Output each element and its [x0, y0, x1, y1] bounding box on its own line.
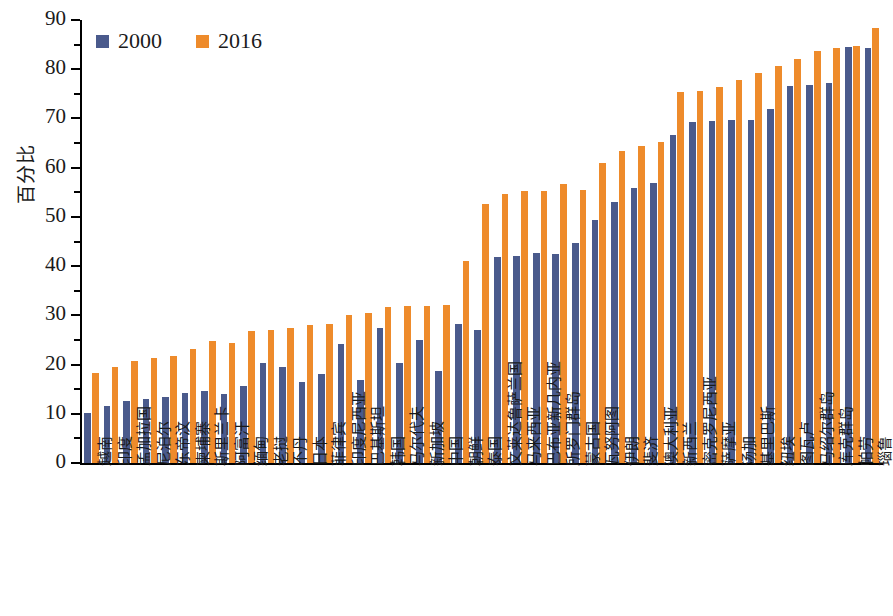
x-axis-label-text: 不丹: [293, 436, 308, 466]
y-tick-label: 0: [56, 450, 67, 472]
bar-group: [767, 20, 787, 463]
bar-group: [104, 20, 124, 463]
x-axis-label-text: 斯里兰卡: [215, 406, 230, 466]
y-tick-mark: [71, 265, 80, 267]
x-axis-label-text: 新西兰: [683, 421, 698, 466]
y-tick-label: 10: [45, 401, 66, 423]
y-tick-mark: [71, 413, 80, 415]
bar-group: [84, 20, 104, 463]
y-axis-title: 百分比: [11, 84, 38, 264]
x-axis-label: 密克罗尼西亚: [703, 376, 718, 466]
x-axis-labels: 越南印度孟加拉国尼泊尔东帝汶柬埔寨斯里兰卡阿富汗缅甸老挝不丹日本菲律宾印度尼西亚…: [82, 466, 882, 616]
y-tick-mark: [71, 167, 80, 169]
bar-group: [650, 20, 670, 463]
x-axis-label: 不丹: [293, 436, 308, 466]
bar-2016: [755, 73, 762, 463]
bar-2000: [84, 413, 91, 463]
y-tick-mark: [74, 290, 80, 292]
x-axis-label: 柬埔寨: [196, 421, 211, 466]
bars-layer: [82, 20, 882, 463]
x-axis-label: 萨摩亚: [722, 421, 737, 466]
x-axis-label-text: 马尔代夫: [410, 406, 425, 466]
y-tick-mark: [74, 241, 80, 243]
x-axis-label-text: 朝鲜: [469, 436, 484, 466]
x-axis-label-text: 萨摩亚: [722, 421, 737, 466]
x-axis-label-text: 老挝: [274, 436, 289, 466]
x-axis-label-text: 阿富汗: [235, 421, 250, 466]
bar-group: [162, 20, 182, 463]
x-axis-label-text: 日本: [313, 436, 328, 466]
bar-2000: [845, 47, 852, 463]
bar-2000: [631, 188, 638, 463]
y-tick-mark: [71, 216, 80, 218]
x-axis-label-text: 图瓦卢: [800, 421, 815, 466]
x-axis-label-text: 马绍尔群岛: [820, 391, 835, 466]
x-axis-label: 马绍尔群岛: [820, 391, 835, 466]
bar-group: [318, 20, 338, 463]
x-axis-label: 瓦努阿图: [605, 406, 620, 466]
x-axis-label-text: 柬埔寨: [196, 421, 211, 466]
x-axis-label: 文莱达鲁萨兰国: [508, 361, 523, 466]
plot-area: 0102030405060708090: [80, 20, 880, 463]
y-tick-mark: [74, 191, 80, 193]
x-axis-label-text: 巴基斯坦: [371, 406, 386, 466]
bar-group: [221, 20, 241, 463]
bar-2000: [787, 86, 794, 463]
bar-group: [279, 20, 299, 463]
x-axis-label-text: 印度: [118, 436, 133, 466]
x-axis-label-text: 缅甸: [254, 436, 269, 466]
bar-group: [631, 20, 651, 463]
x-axis-label-text: 巴布亚新几内亚: [547, 361, 562, 466]
x-axis-label: 基里巴斯: [761, 406, 776, 466]
bar-2016: [638, 146, 645, 463]
y-tick-mark: [71, 117, 80, 119]
x-axis-label: 蒙古国: [586, 421, 601, 466]
y-tick-mark: [74, 388, 80, 390]
bar-2016: [775, 66, 782, 463]
x-axis-label: 阿富汗: [235, 421, 250, 466]
bar-group: [260, 20, 280, 463]
x-axis-label-text: 东帝汶: [176, 421, 191, 466]
bar-2016: [463, 261, 470, 463]
bar-group: [845, 20, 865, 463]
y-tick-label: 90: [45, 7, 66, 29]
x-axis-label: 东帝汶: [176, 421, 191, 466]
bar-2000: [689, 122, 696, 463]
y-tick-mark: [74, 339, 80, 341]
x-axis-label: 缅甸: [254, 436, 269, 466]
x-axis-label: 帕劳: [859, 436, 874, 466]
x-axis-label: 菲律宾: [332, 421, 347, 466]
bar-group: [474, 20, 494, 463]
x-axis-label-text: 韩国: [391, 436, 406, 466]
legend-label-2000: 2000: [118, 30, 162, 52]
y-tick-mark: [71, 314, 80, 316]
x-axis-label-text: 汤加: [742, 436, 757, 466]
bar-group: [728, 20, 748, 463]
x-axis-label-text: 瓦努阿图: [605, 406, 620, 466]
x-axis-label: 斯里兰卡: [215, 406, 230, 466]
x-axis-label-text: 帕劳: [859, 436, 874, 466]
bar-2000: [748, 120, 755, 463]
x-axis-label: 马来西亚: [527, 406, 542, 466]
y-tick-mark: [71, 19, 80, 21]
bar-2016: [736, 80, 743, 463]
x-axis-label: 巴基斯坦: [371, 406, 386, 466]
x-axis-label: 澳大利亚: [664, 406, 679, 466]
bar-group: [670, 20, 690, 463]
bar-group: [299, 20, 319, 463]
x-axis-label-text: 中国: [449, 436, 464, 466]
x-axis-label-text: 尼泊尔: [157, 421, 172, 466]
x-axis-label-text: 库克群岛: [839, 406, 854, 466]
bar-group: [416, 20, 436, 463]
x-axis-label: 老挝: [274, 436, 289, 466]
x-axis-label-text: 瑙鲁: [878, 436, 893, 466]
bar-group: [143, 20, 163, 463]
x-axis-label: 瑙鲁: [878, 436, 893, 466]
legend-item-2000: 2000: [96, 30, 162, 52]
x-axis-label: 库克群岛: [839, 406, 854, 466]
x-axis-label: 孟加拉国: [137, 406, 152, 466]
y-tick-mark: [74, 437, 80, 439]
x-axis-label: 巴布亚新几内亚: [547, 361, 562, 466]
x-axis-label: 新西兰: [683, 421, 698, 466]
x-axis-label: 斐济: [644, 436, 659, 466]
